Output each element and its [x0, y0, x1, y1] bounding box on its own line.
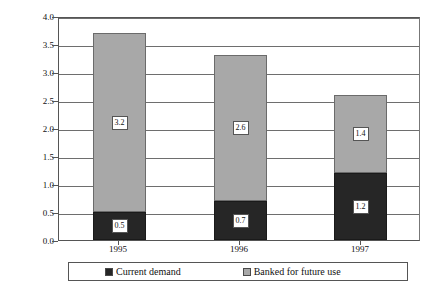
- x-axis-tick-label: 1995: [83, 245, 153, 254]
- legend-swatch-icon: [105, 268, 113, 276]
- y-axis-tick-label: 4.0: [10, 13, 54, 22]
- bar-segment-banked-for-future-use[interactable]: 3.2: [93, 33, 146, 212]
- bar-group[interactable]: 1.41.2: [334, 16, 387, 240]
- bar-segment-current-demand[interactable]: 1.2: [334, 173, 387, 240]
- legend-label: Banked for future use: [254, 267, 341, 277]
- bar-value-label: 3.2: [112, 116, 128, 130]
- y-axis-tick-label: 2.5: [10, 97, 54, 106]
- y-axis-tick-label: 2.0: [10, 125, 54, 134]
- bar-segment-current-demand[interactable]: 0.7: [214, 201, 267, 240]
- legend-swatch-icon: [243, 268, 251, 276]
- plot-area: 3.20.52.60.71.41.2: [58, 17, 420, 241]
- y-axis-tick-label: 0.0: [10, 237, 54, 246]
- y-axis-tick-label: 3.0: [10, 69, 54, 78]
- plot-inner: 3.20.52.60.71.41.2: [59, 18, 419, 240]
- legend-label: Current demand: [116, 267, 181, 277]
- chart-figure: Millions of allowances 4.03.53.02.52.01.…: [0, 0, 432, 290]
- y-axis-tick-mark: [52, 241, 58, 242]
- bar-value-label: 0.5: [112, 219, 128, 233]
- x-axis-tick-label: 1996: [204, 245, 274, 254]
- legend-entry[interactable]: Current demand: [105, 267, 181, 277]
- bar-segment-current-demand[interactable]: 0.5: [93, 212, 146, 240]
- bar-value-label: 1.4: [353, 127, 369, 141]
- bar-value-label: 0.7: [233, 214, 249, 228]
- bar-group[interactable]: 2.60.7: [214, 16, 267, 240]
- y-axis-tick-label: 1.5: [10, 153, 54, 162]
- bar-group[interactable]: 3.20.5: [93, 16, 146, 240]
- x-axis-tick-label: 1997: [325, 245, 395, 254]
- bar-segment-banked-for-future-use[interactable]: 1.4: [334, 95, 387, 173]
- legend-entry[interactable]: Banked for future use: [243, 267, 341, 277]
- y-axis-tick-label: 3.5: [10, 41, 54, 50]
- chart-legend: Current demandBanked for future use: [68, 262, 408, 281]
- bar-value-label: 1.2: [353, 200, 369, 214]
- bar-segment-banked-for-future-use[interactable]: 2.6: [214, 55, 267, 201]
- bar-value-label: 2.6: [233, 121, 249, 135]
- y-axis-tick-label: 1.0: [10, 181, 54, 190]
- y-axis-tick-label: 0.5: [10, 209, 54, 218]
